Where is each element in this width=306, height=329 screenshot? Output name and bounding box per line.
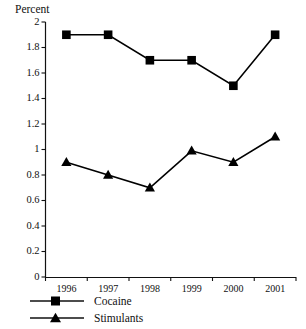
legend-item-stimulants: Stimulants <box>28 309 288 326</box>
data-point-cocaine <box>104 30 113 39</box>
data-point-cocaine <box>146 56 155 65</box>
legend-label-cocaine: Cocaine <box>94 294 132 308</box>
series-line-stimulants <box>66 137 275 188</box>
data-point-stimulants <box>61 157 71 166</box>
y-tick-label: 0.4 <box>4 221 40 232</box>
data-point-cocaine <box>187 56 196 65</box>
data-point-cocaine <box>271 30 280 39</box>
legend-item-cocaine: Cocaine <box>28 292 288 309</box>
line-chart: Percent 00.20.40.60.811.21.41.61.82 1996… <box>0 0 306 329</box>
data-point-cocaine <box>229 81 238 90</box>
y-tick-label: 1.8 <box>4 42 40 53</box>
legend-label-stimulants: Stimulants <box>94 311 143 325</box>
series-line-cocaine <box>66 35 275 86</box>
data-point-cocaine <box>62 30 71 39</box>
y-tick-label: 0 <box>4 272 40 283</box>
plot-area <box>0 0 306 329</box>
legend-swatch-square <box>28 294 86 308</box>
chart-legend: Cocaine Stimulants <box>28 292 288 326</box>
legend-swatch-triangle <box>28 311 86 325</box>
y-tick-label: 1 <box>4 144 40 155</box>
y-tick-label: 1.4 <box>4 93 40 104</box>
y-tick-label: 2 <box>4 17 40 28</box>
y-tick-label: 0.2 <box>4 246 40 257</box>
y-tick-label: 1.6 <box>4 68 40 79</box>
y-tick-label: 1.2 <box>4 119 40 130</box>
data-point-stimulants <box>270 132 280 141</box>
data-point-stimulants <box>187 146 197 155</box>
series-layer <box>61 30 280 191</box>
y-tick-label: 0.6 <box>4 195 40 206</box>
y-tick-label: 0.8 <box>4 170 40 181</box>
